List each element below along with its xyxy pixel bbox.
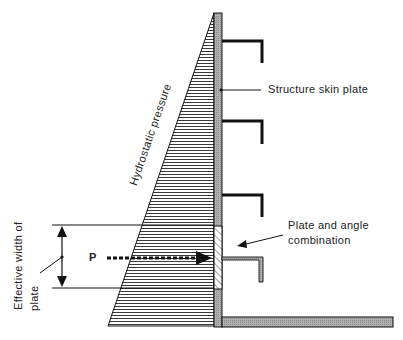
- effective-width-dimension-arrow: [40, 226, 67, 287]
- force-p-label: P: [89, 251, 97, 263]
- bottom-flange: [222, 317, 393, 327]
- plate-angle-label-line1: Plate and angle: [288, 219, 369, 231]
- effective-width-label-line2: plate: [28, 286, 40, 311]
- plate-angle-label-line2: combination: [288, 234, 351, 246]
- skin-plate-label: Structure skin plate: [268, 83, 368, 95]
- stiffener-angle-1: [222, 41, 262, 63]
- effective-width-label-line1: Effective width of: [12, 222, 24, 310]
- plate-angle-section: [214, 226, 222, 289]
- skin-plate-leader: [220, 89, 262, 92]
- stiffener-angle-3: [222, 195, 262, 217]
- diagram-canvas: [0, 0, 403, 340]
- hydrostatic-pressure-triangle: [108, 13, 214, 326]
- combination-angle: [222, 257, 263, 282]
- stiffener-angle-2: [222, 121, 262, 144]
- plate-angle-leader: [237, 235, 283, 248]
